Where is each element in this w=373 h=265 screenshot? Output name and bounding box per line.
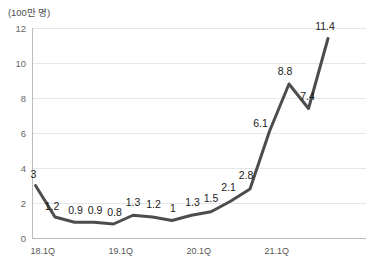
data-point-labels: 31.20.90.90.81.31.211.31.52.12.86.18.87.… xyxy=(31,20,335,219)
data-point-label: 8.8 xyxy=(278,65,293,77)
gridlines xyxy=(32,29,366,204)
data-point-label: 7.4 xyxy=(300,90,315,102)
data-point-label: 1.2 xyxy=(45,200,60,212)
x-axis-tick-label: 18.1Q xyxy=(31,246,56,256)
data-point-label: 6.1 xyxy=(253,117,268,129)
y-axis-tick-label: 10 xyxy=(15,58,26,69)
data-point-label: 0.9 xyxy=(68,204,83,216)
data-point-label: 2.8 xyxy=(239,169,254,181)
data-point-label: 0.8 xyxy=(107,206,122,218)
y-axis-tick-label: 6 xyxy=(21,128,26,139)
x-axis-tick-label: 21.1Q xyxy=(265,246,290,256)
y-axis-tick-label: 8 xyxy=(21,93,26,104)
y-axis-tick-label: 0 xyxy=(21,233,26,244)
y-axis-ticks: 024681012 xyxy=(15,23,26,244)
data-point-label: 1.3 xyxy=(126,196,141,208)
data-point-label: 3 xyxy=(31,168,37,180)
y-axis-tick-label: 2 xyxy=(21,198,26,209)
line-chart: (100만 명) 024681012 31.20.90.90.81.31.211… xyxy=(0,0,373,265)
data-point-label: 1.5 xyxy=(204,192,219,204)
data-point-label: 11.4 xyxy=(315,20,335,32)
data-point-label: 2.1 xyxy=(221,181,236,193)
x-axis-tick-label: 20.1Q xyxy=(187,246,212,256)
data-point-label: 1 xyxy=(170,202,176,214)
x-axis-ticks: 18.1Q19.1Q20.1Q21.1Q xyxy=(31,246,290,256)
chart-plot-area: 024681012 31.20.90.90.81.31.211.31.52.12… xyxy=(0,0,373,265)
y-axis-tick-label: 12 xyxy=(15,23,26,34)
x-axis-tick-label: 19.1Q xyxy=(109,246,134,256)
data-point-label: 1.2 xyxy=(146,198,161,210)
data-point-label: 1.3 xyxy=(185,196,200,208)
y-axis-tick-label: 4 xyxy=(21,163,26,174)
data-point-label: 0.9 xyxy=(88,204,103,216)
